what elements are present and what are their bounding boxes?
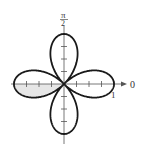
radial-tick-label: 1	[111, 90, 116, 100]
vertical-axis-label-denominator: 2	[61, 19, 65, 28]
axis-arrow-icon	[121, 82, 127, 87]
polar-rose-figure: 0 1 π 2	[0, 0, 142, 148]
polar-axis-label: 0	[130, 79, 135, 90]
